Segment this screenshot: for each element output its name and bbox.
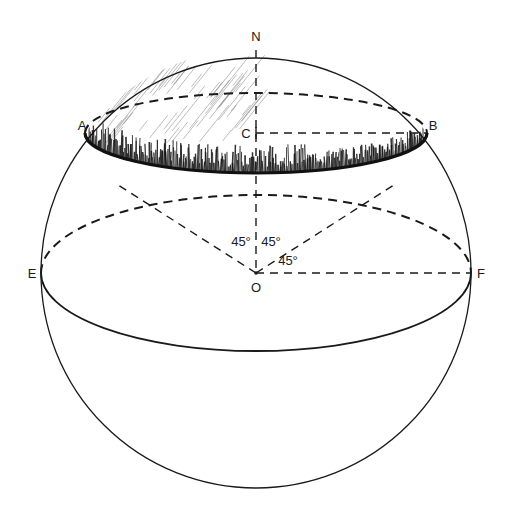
- shading-stroke: [194, 157, 195, 171]
- shading-stroke: [150, 68, 170, 93]
- shading-stroke: [111, 120, 122, 134]
- shading-stroke: [192, 74, 202, 87]
- shading-stroke: [326, 152, 327, 170]
- label-N: N: [251, 29, 260, 44]
- shading-stroke: [150, 115, 168, 138]
- shading-stroke: [380, 145, 381, 161]
- shading-stroke: [128, 144, 129, 160]
- shading-stroke: [159, 62, 182, 90]
- shading-stroke: [93, 125, 94, 145]
- shading-stroke: [173, 147, 174, 168]
- shading-stroke: [335, 152, 336, 169]
- shading-stroke: [224, 160, 225, 173]
- shading-stroke: [391, 138, 392, 157]
- shading-stroke: [396, 139, 397, 156]
- shading-stroke: [189, 144, 190, 170]
- shading-stroke: [166, 151, 167, 167]
- shading-stroke: [337, 157, 338, 169]
- sphere-cap-diagram: N A B C O E F 45° 45° 45°: [0, 0, 514, 527]
- shading-stroke: [110, 52, 139, 88]
- shading-stroke: [181, 145, 182, 169]
- shading-stroke: [136, 137, 137, 161]
- label-A: A: [78, 118, 87, 133]
- shading-stroke: [312, 154, 313, 171]
- shading-stroke: [211, 89, 224, 105]
- shading-stroke: [139, 120, 147, 130]
- label-C: C: [241, 126, 250, 141]
- shading-stroke: [102, 87, 115, 103]
- shading-stroke: [189, 65, 211, 93]
- shading-stroke: [235, 145, 236, 173]
- shading-stroke: [209, 93, 230, 119]
- shading-stroke: [111, 105, 139, 140]
- shading-stroke: [362, 145, 363, 165]
- shading-stroke: [382, 146, 383, 160]
- shading-stroke: [320, 159, 321, 170]
- shading-stroke: [115, 72, 129, 89]
- shading-stroke: [206, 152, 207, 171]
- cone-line-O-B: [256, 183, 397, 273]
- cone-line-O-A: [115, 183, 256, 273]
- shading-stroke: [151, 151, 152, 165]
- shading-stroke: [97, 74, 125, 108]
- shading-stroke: [346, 149, 347, 167]
- shading-stroke: [131, 144, 132, 160]
- shading-stroke: [145, 144, 146, 164]
- shading-stroke: [240, 92, 270, 129]
- shading-stroke: [154, 153, 155, 166]
- shading-stroke: [222, 156, 223, 172]
- shading-stroke: [260, 151, 261, 173]
- shading-stroke: [164, 58, 188, 88]
- angle-label-AON: 45°: [231, 234, 251, 249]
- shading-stroke: [227, 105, 237, 117]
- figure-canvas: N A B C O E F 45° 45° 45°: [0, 0, 514, 527]
- shading-stroke: [225, 154, 226, 173]
- center-point-O: [254, 271, 258, 275]
- shading-stroke: [99, 92, 110, 106]
- shading-stroke: [222, 130, 231, 141]
- shading-stroke: [165, 106, 187, 134]
- shading-stroke: [369, 146, 370, 163]
- shading-stroke: [195, 154, 196, 171]
- shading-stroke: [197, 145, 198, 171]
- label-F: F: [477, 266, 485, 281]
- label-O: O: [251, 280, 261, 295]
- shading-stroke: [270, 146, 271, 173]
- shading-stroke: [366, 145, 367, 164]
- shading-stroke: [412, 134, 413, 149]
- shading-stroke: [177, 154, 178, 169]
- shading-stroke: [324, 156, 325, 169]
- shading-stroke: [308, 154, 309, 171]
- shading-stroke: [300, 144, 301, 171]
- shading-stroke: [281, 161, 282, 172]
- label-E: E: [28, 266, 37, 281]
- shading-stroke: [171, 122, 187, 142]
- angle-label-NOB: 45°: [261, 234, 281, 249]
- shading-stroke: [183, 121, 198, 139]
- angle-label-BOF: 45°: [278, 253, 298, 268]
- shading-stroke: [169, 145, 170, 168]
- shading-stroke: [242, 161, 243, 172]
- shading-stroke: [393, 137, 394, 157]
- shading-stroke: [288, 144, 289, 172]
- shading-stroke: [132, 72, 144, 87]
- shading-stroke: [242, 105, 250, 116]
- shading-stroke: [235, 55, 264, 92]
- shading-stroke: [242, 89, 267, 121]
- shading-stroke: [236, 154, 237, 173]
- shading-stroke: [141, 146, 142, 163]
- shading-stroke: [120, 145, 121, 157]
- shading-stroke: [268, 151, 269, 172]
- shading-stroke: [344, 150, 345, 167]
- label-B: B: [429, 118, 438, 133]
- shading-stroke: [223, 56, 249, 89]
- shading-stroke: [189, 96, 216, 129]
- shading-stroke: [221, 159, 222, 173]
- shading-stroke: [133, 68, 165, 108]
- shading-stroke: [106, 115, 128, 142]
